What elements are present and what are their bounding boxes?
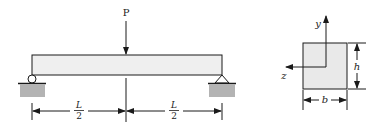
dim-right-denominator: 2 xyxy=(171,111,177,121)
section-rectangle xyxy=(303,43,347,89)
dim-left-numerator: L xyxy=(75,100,82,110)
beam-diagram: P L 2 L 2 y xyxy=(0,0,388,129)
roller-support xyxy=(18,75,46,97)
roller-icon xyxy=(28,75,36,83)
beam xyxy=(32,55,222,75)
width-label: b xyxy=(322,94,328,105)
ground-right-icon xyxy=(209,84,235,97)
axis-z-label: z xyxy=(280,70,287,81)
ground-left-icon xyxy=(20,84,45,97)
cross-section: y z h b xyxy=(280,16,366,110)
span-dimension: L 2 L 2 xyxy=(32,78,222,122)
load-p: P xyxy=(123,7,130,54)
pin-support xyxy=(208,75,236,97)
dim-left-denominator: 2 xyxy=(76,111,82,121)
load-label: P xyxy=(123,7,130,18)
height-label: h xyxy=(354,61,360,72)
dim-right-numerator: L xyxy=(170,100,177,110)
axis-y-label: y xyxy=(314,18,321,29)
pin-icon xyxy=(215,75,229,83)
